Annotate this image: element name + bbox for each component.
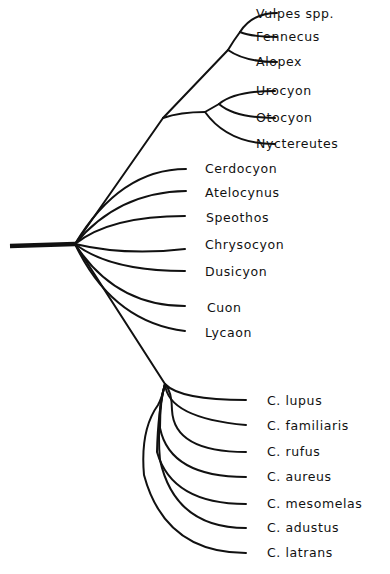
branch-c-lupus — [165, 384, 246, 400]
label-c-latrans: C. latrans — [267, 546, 333, 560]
branch-urocyon-subnode — [205, 104, 219, 112]
label-speothos: Speothos — [206, 211, 269, 225]
label-c-familiaris: C. familiaris — [267, 419, 349, 433]
label-atelocynus: Atelocynus — [205, 186, 280, 200]
root-stem — [10, 244, 75, 246]
branch-c-familiaris — [165, 384, 246, 425]
label-c-adustus: C. adustus — [267, 521, 339, 535]
label-alopex: Alopex — [256, 55, 302, 69]
label-chrysocyon: Chrysocyon — [205, 238, 284, 252]
label-vulpes: Vulpes spp. — [256, 7, 334, 21]
label-otocyon: Otocyon — [256, 111, 312, 125]
label-cuon: Cuon — [207, 301, 242, 315]
branch-to-vulpine-node — [163, 50, 228, 118]
label-urocyon: Urocyon — [256, 84, 312, 98]
label-c-mesomelas: C. mesomelas — [267, 497, 362, 511]
label-c-lupus: C. lupus — [267, 394, 322, 408]
label-lycaon: Lycaon — [205, 326, 252, 340]
label-nyctereutes: Nyctereutes — [256, 137, 338, 151]
label-dusicyon: Dusicyon — [205, 265, 267, 279]
branch-atelocynus — [75, 191, 186, 244]
branch-lycaon — [75, 244, 185, 331]
branch-vulpine-subnode — [228, 32, 240, 50]
label-c-rufus: C. rufus — [267, 445, 320, 459]
phylogenetic-tree — [0, 0, 390, 574]
branch-c-mesomelas — [157, 384, 246, 504]
branch-to-urocyon-node — [163, 112, 205, 118]
label-fennecus: Fennecus — [256, 30, 320, 44]
label-c-aureus: C. aureus — [267, 470, 332, 484]
branch-chrysocyon — [75, 244, 185, 252]
label-cerdocyon: Cerdocyon — [205, 162, 277, 176]
